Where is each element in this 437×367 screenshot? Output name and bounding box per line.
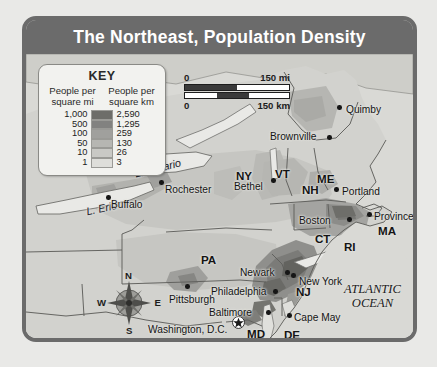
key-swatch-1	[91, 120, 113, 130]
state-label-pa: PA	[201, 253, 216, 266]
compass-north-label: N	[125, 270, 132, 281]
compass-east-label: E	[155, 297, 161, 308]
state-label-de: DE	[284, 328, 300, 341]
city-label-buffalo: Buffalo	[111, 199, 143, 210]
key-swatch-3	[91, 139, 113, 149]
city-label-philadelphia: Philadelphia	[211, 286, 267, 297]
scale-km-zero: 0	[184, 100, 189, 111]
city-marker-buffalo	[106, 195, 111, 200]
city-marker-bethel	[271, 178, 276, 183]
city-label-baltimore: Baltimore	[209, 307, 252, 318]
key-header-km-line2: square km	[102, 96, 161, 107]
scale-miles-labels: 0 150 mi	[184, 72, 290, 83]
map-figure: The Northeast, Population Density	[0, 0, 437, 367]
key-row-km-4: 26	[117, 148, 163, 158]
scale-miles-max: 150 mi	[260, 72, 290, 83]
ocean-label-line2: OCEAN	[344, 296, 401, 310]
scale-bar-graphic-km	[184, 92, 290, 99]
key-color-swatches	[91, 110, 113, 168]
key-column-headers: People per square mi People per square k…	[39, 85, 165, 107]
key-header-miles: People per square mi	[43, 85, 102, 107]
key-header-miles-line2: square mi	[43, 96, 102, 107]
city-label-newark: Newark	[240, 267, 275, 278]
state-label-nh: NH	[302, 183, 319, 196]
state-label-me: ME	[317, 172, 334, 185]
city-marker-cape-may	[287, 313, 292, 318]
city-label-bethel: Bethel	[234, 181, 263, 192]
map-frame: The Northeast, Population Density	[22, 16, 417, 342]
city-label-boston: Boston	[299, 215, 331, 226]
compass-south-label: S	[126, 325, 132, 336]
city-marker-quimby	[337, 105, 342, 110]
scale-bar-graphic	[184, 84, 290, 91]
city-label-brownville: Brownville	[270, 131, 316, 142]
city-marker-new-york	[291, 273, 296, 278]
key-heading: KEY	[39, 69, 165, 83]
state-label-ri: RI	[344, 240, 356, 253]
page-title: The Northeast, Population Density	[73, 27, 365, 48]
city-label-cape-may: Cape May	[294, 312, 340, 323]
scale-miles-zero: 0	[184, 72, 189, 83]
state-label-md: MD	[247, 327, 265, 340]
key-values-miles: 1,00050010050101	[42, 110, 91, 168]
key-values-km: 2,5901,295259130263	[113, 110, 163, 168]
map-title-bar: The Northeast, Population Density	[26, 20, 413, 54]
scale-km-labels: 0 150 km	[184, 100, 290, 111]
key-swatch-0	[91, 110, 113, 120]
key-row-miles-4: 10	[42, 148, 88, 158]
map-scale-bar: 0 150 mi 0 150 km	[184, 72, 290, 111]
map-key: KEY People per square mi People per squa…	[38, 64, 166, 176]
state-label-vt: VT	[275, 167, 290, 180]
city-label-provincetown: Provincetown	[374, 211, 413, 222]
key-row-miles-5: 1	[42, 158, 88, 168]
state-label-ct: CT	[315, 232, 330, 245]
city-marker-portland	[334, 187, 339, 192]
city-marker-boston	[347, 217, 352, 222]
city-marker-provincetown	[367, 212, 372, 217]
key-swatch-4	[91, 148, 113, 158]
key-swatch-5	[91, 158, 113, 168]
scale-km-max: 150 km	[257, 100, 290, 111]
state-label-ma: MA	[378, 224, 396, 237]
city-marker-brownville	[327, 135, 332, 140]
compass-rose: N E S W	[98, 272, 160, 334]
map-canvas: KEY People per square mi People per squa…	[26, 54, 413, 342]
city-label-quimby: Quimby	[346, 104, 381, 115]
city-marker-newark	[285, 270, 290, 275]
key-legend-rows: 1,00050010050101 2,5901,295259130263	[39, 110, 165, 168]
key-header-km: People per square km	[102, 85, 161, 107]
compass-west-label: W	[97, 297, 106, 308]
city-label-portland: Portland	[342, 186, 380, 197]
key-header-miles-line1: People per	[43, 85, 102, 96]
city-marker-philadelphia	[273, 289, 278, 294]
city-label-new-york: New York	[299, 276, 342, 287]
key-row-km-5: 3	[117, 158, 163, 168]
city-label-pittsburgh: Pittsburgh	[169, 294, 215, 305]
ocean-label-line1: ATLANTIC	[344, 282, 401, 296]
city-marker-pittsburgh	[185, 284, 190, 289]
ocean-label: ATLANTIC OCEAN	[344, 282, 401, 310]
key-swatch-2	[91, 129, 113, 139]
city-label-rochester: Rochester	[165, 184, 211, 195]
city-marker-baltimore	[266, 310, 271, 315]
key-header-km-line1: People per	[102, 85, 161, 96]
city-marker-rochester	[159, 180, 164, 185]
